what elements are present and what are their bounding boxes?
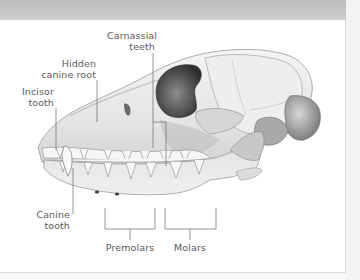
- label-premolars: Premolars: [100, 242, 160, 253]
- label-carnassial-teeth: Carnassial teeth: [107, 30, 155, 52]
- label-molars: Molars: [165, 242, 215, 253]
- label-canine-tooth: Canine tooth: [34, 209, 70, 231]
- label-incisor-tooth: Incisor tooth: [18, 86, 54, 108]
- dog-skull-illustration: [0, 0, 360, 280]
- label-hidden-canine-root: Hidden canine root: [40, 58, 96, 80]
